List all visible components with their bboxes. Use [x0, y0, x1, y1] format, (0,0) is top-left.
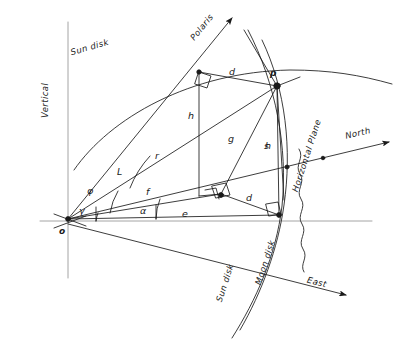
label-angle-L: L — [117, 166, 123, 177]
label-segment-f: f — [146, 186, 150, 197]
right-angle-inner — [205, 188, 219, 199]
angle-arc-alpha — [156, 199, 160, 219]
point-wave-cross-dot — [321, 156, 325, 160]
segment-d-upper — [199, 72, 277, 86]
point-p-dot — [274, 83, 280, 89]
label-segment-s: s — [264, 140, 269, 151]
label-angle-gamma: γ — [79, 205, 85, 216]
label-angle-phi: φ — [87, 185, 94, 196]
diagram-root: Sun disk Vertical Polaris North East Hor… — [0, 0, 406, 363]
label-segment-d-upper: d — [229, 66, 235, 77]
point-base-dot — [219, 193, 224, 198]
diagram-canvas — [0, 0, 406, 363]
label-angle-alpha: α — [140, 205, 147, 216]
label-point-origin: o — [59, 226, 66, 236]
label-segment-g: g — [228, 133, 234, 144]
point-origin-dot — [66, 217, 71, 222]
point-apex-dot — [197, 70, 201, 74]
angle-arc-phi — [110, 191, 118, 213]
point-foot-dot — [277, 213, 282, 218]
label-segment-e: e — [182, 208, 188, 219]
north-ray — [68, 142, 389, 219]
point-north-cross-dot — [285, 165, 289, 169]
segment-e — [68, 215, 279, 219]
label-vertical: Vertical — [40, 83, 50, 118]
sun-disk-arc-upper — [74, 70, 392, 170]
p-ray-north — [277, 77, 300, 86]
label-segment-h-left: h — [188, 110, 194, 121]
label-segment-d-lower: d — [246, 192, 252, 203]
angle-arc-L — [130, 156, 150, 188]
label-point-p: p — [270, 68, 277, 78]
label-segment-r: r — [155, 150, 159, 161]
